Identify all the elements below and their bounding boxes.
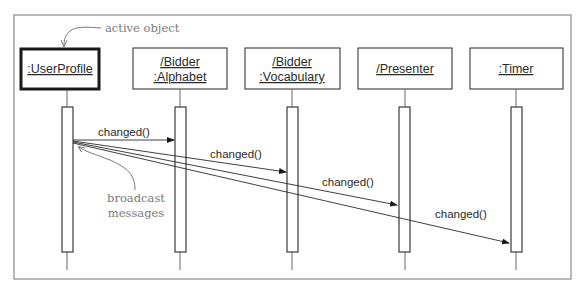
object-bidder-alphabet: /Bidder :Alphabet [133, 48, 227, 89]
activation-bar-timer [511, 107, 522, 252]
active-object-label: active object [105, 21, 180, 35]
object-label-vocabulary-line2: :Vocabulary [259, 70, 325, 84]
object-label-bidder-line1: /Bidder [160, 55, 200, 69]
message-label-to-alphabet: changed() [98, 126, 150, 138]
message-label-to-vocabulary: changed() [210, 148, 262, 160]
object-label-presenter: /Presenter [376, 62, 434, 76]
broadcast-pointer-arrow [79, 147, 135, 190]
activation-bar-userprofile [62, 107, 73, 252]
object-label-userprofile: :UserProfile [27, 62, 92, 76]
object-label-bidder-line1: /Bidder [272, 55, 312, 69]
activation-bar-bidder-vocabulary [287, 107, 298, 252]
object-presenter: /Presenter [358, 48, 452, 89]
activation-bar-presenter [399, 107, 410, 252]
annotation-broadcast-messages: broadcast messages [79, 147, 165, 220]
object-label-alphabet-line2: :Alphabet [154, 70, 207, 84]
broadcast-label-line2: messages [108, 206, 165, 220]
annotation-active-object: active object [64, 21, 180, 46]
active-object-pointer-arrow [64, 27, 101, 46]
sequence-diagram: :UserProfile /Bidder :Alphabet /Bidder :… [0, 0, 581, 291]
message-label-to-timer: changed() [435, 208, 487, 220]
activation-bar-bidder-alphabet [175, 107, 186, 252]
object-userprofile: :UserProfile [21, 49, 99, 89]
object-timer: :Timer [470, 48, 563, 89]
object-label-timer: :Timer [499, 62, 534, 76]
object-bidder-vocabulary: /Bidder :Vocabulary [245, 48, 340, 89]
broadcast-label-line1: broadcast [107, 191, 165, 205]
message-label-to-presenter: changed() [322, 176, 374, 188]
